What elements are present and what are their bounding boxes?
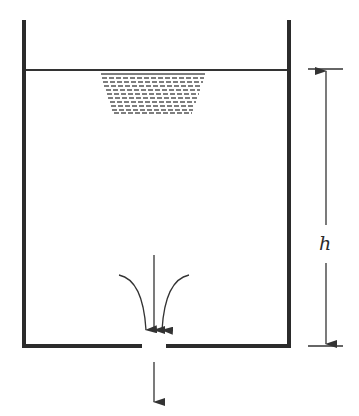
tank-bottom-left <box>22 344 142 348</box>
tank-diagram: h <box>0 0 359 416</box>
tank-left-wall <box>22 20 26 348</box>
height-dimension-arrow <box>308 69 343 346</box>
water-surface-hatch <box>101 74 205 113</box>
flow-arrows-converging <box>119 255 189 330</box>
height-label: h <box>319 232 331 254</box>
tank-right-wall <box>287 20 291 348</box>
tank-bottom-right <box>166 344 291 348</box>
left-flow-arrow <box>119 275 146 330</box>
right-flow-arrow <box>162 275 189 330</box>
